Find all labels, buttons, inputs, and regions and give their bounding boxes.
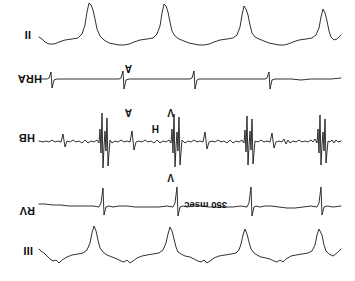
trace-ii — [0, 0, 355, 55]
ep-recording-figure: III RV HB HRA II 350 msec V V H A A — [0, 0, 355, 281]
channel-rv — [0, 180, 355, 225]
channel-label-rv: RV — [20, 205, 35, 217]
rotated-recording-stage: III RV HB HRA II 350 msec V V H A A — [0, 0, 355, 281]
annotation-h-marker: H — [152, 123, 159, 134]
trace-hra — [0, 57, 355, 99]
channel-label-ii: II — [24, 29, 31, 41]
trace-path-ii — [39, 3, 341, 45]
trace-path-hra — [39, 71, 341, 89]
channel-label-hb: HB — [19, 132, 35, 144]
channel-ii — [0, 3, 355, 55]
channel-hra — [0, 57, 355, 99]
trace-path-hb — [39, 113, 341, 168]
trace-hb — [0, 103, 355, 177]
trace-iii — [0, 217, 355, 273]
annotation-a-marker-hra: A — [125, 63, 132, 74]
trace-rv — [0, 177, 355, 225]
annotation-v-above-hb: V — [167, 172, 174, 183]
annotation-a-marker-hb: A — [125, 107, 132, 118]
trace-path-iii — [39, 226, 341, 263]
annotation-v-below-hb: V — [167, 107, 174, 118]
channel-label-iii: III — [23, 245, 33, 257]
caliper-interval-label: 350 msec — [184, 200, 227, 211]
channel-label-hra: HRA — [18, 73, 42, 85]
channel-iii — [0, 225, 355, 273]
channel-hb — [0, 105, 355, 177]
